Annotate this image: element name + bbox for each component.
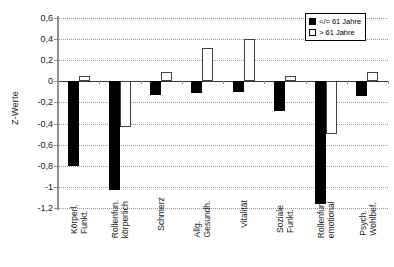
x-axis-category-label: Psych.Wohlbef. bbox=[347, 209, 388, 267]
bar bbox=[202, 48, 213, 82]
x-axis-category-label: Rollenfun.emotional bbox=[306, 209, 347, 267]
y-axis-title-text: Z-Werte bbox=[10, 91, 20, 125]
bar bbox=[326, 81, 337, 134]
legend-item-label: > 61 Jahre bbox=[319, 28, 355, 37]
y-axis-line bbox=[57, 16, 59, 210]
x-axis-category-label: Schmerz bbox=[141, 209, 182, 267]
bar-group bbox=[347, 18, 388, 208]
legend: </= 61 Jahre> 61 Jahre bbox=[305, 13, 366, 41]
bar bbox=[191, 81, 202, 93]
y-axis-tick-label: 0,2 bbox=[40, 55, 53, 65]
x-axis-category-label: Allg.Gesundh. bbox=[182, 209, 223, 267]
bar bbox=[285, 76, 296, 81]
y-axis-tick-label: -1,2 bbox=[37, 203, 53, 213]
legend-item: > 61 Jahre bbox=[309, 27, 361, 38]
legend-item: </= 61 Jahre bbox=[309, 16, 361, 27]
y-axis-tick-label: 0,4 bbox=[40, 34, 53, 44]
legend-hollow-square-icon bbox=[309, 29, 316, 36]
x-axis-category-label: Rollenfun.körperlich bbox=[99, 209, 140, 267]
x-axis-category-label: Körperl.Funkt. bbox=[58, 209, 99, 267]
plot-area bbox=[58, 18, 388, 208]
y-axis-title: Z-Werte bbox=[4, 0, 26, 215]
bar bbox=[367, 72, 378, 82]
y-axis-tick-label: -1 bbox=[45, 182, 53, 192]
bar bbox=[68, 81, 79, 165]
y-axis-tick-label: -0,8 bbox=[37, 161, 53, 171]
bar bbox=[109, 81, 120, 190]
bar-chart: Z-Werte 0,60,40,20-0,2-0,4-0,6-0,8-1-1,2… bbox=[0, 0, 394, 267]
bar-group bbox=[99, 18, 140, 208]
bar bbox=[79, 76, 90, 81]
bar bbox=[315, 81, 326, 203]
y-axis-tick-labels: 0,60,40,20-0,2-0,4-0,6-0,8-1-1,2 bbox=[26, 12, 56, 210]
bar bbox=[161, 72, 172, 82]
legend-item-label: </= 61 Jahre bbox=[319, 17, 361, 26]
y-axis-tick-label: -0,6 bbox=[37, 140, 53, 150]
y-axis-tick-label: 0 bbox=[48, 76, 53, 86]
bar-group bbox=[223, 18, 264, 208]
y-axis-tick-label: -0,4 bbox=[37, 119, 53, 129]
bar-group bbox=[182, 18, 223, 208]
bar-group bbox=[58, 18, 99, 208]
x-axis-category-labels: Körperl.Funkt.Rollenfun.körperlichSchmer… bbox=[58, 209, 388, 267]
x-axis-tick bbox=[388, 81, 389, 84]
bar-group bbox=[306, 18, 347, 208]
y-axis-tick-label: -0,2 bbox=[37, 97, 53, 107]
bar bbox=[120, 81, 131, 126]
y-axis-tick-label: 0,6 bbox=[40, 13, 53, 23]
bar bbox=[233, 81, 244, 92]
x-axis-category-label: Vitalität bbox=[223, 209, 264, 267]
bar bbox=[274, 81, 285, 111]
bar-group bbox=[264, 18, 305, 208]
bar bbox=[150, 81, 161, 95]
x-axis-category-label: SozialeFunkt. bbox=[264, 209, 305, 267]
legend-filled-square-icon bbox=[309, 18, 316, 25]
bar bbox=[356, 81, 367, 96]
bar bbox=[244, 39, 255, 81]
bar-group bbox=[141, 18, 182, 208]
